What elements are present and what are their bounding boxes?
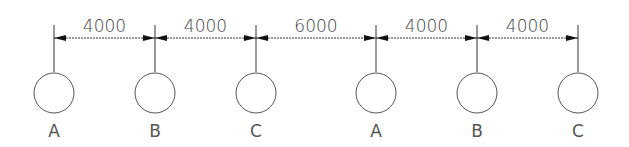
axis-bubble bbox=[135, 73, 175, 113]
axis-bubble bbox=[457, 73, 497, 113]
dimension-value: 4000 bbox=[184, 16, 227, 36]
arrowhead-icon bbox=[244, 35, 256, 41]
dimension-value: 4000 bbox=[83, 16, 126, 36]
dimension-value: 6000 bbox=[294, 16, 337, 36]
axis-bubble bbox=[356, 73, 396, 113]
arrowhead-icon bbox=[256, 35, 268, 41]
arrowhead-icon bbox=[143, 35, 155, 41]
axis-label: C bbox=[572, 121, 584, 141]
arrowhead-icon bbox=[477, 35, 489, 41]
axis-bubble bbox=[34, 73, 74, 113]
arrowhead-icon bbox=[566, 35, 578, 41]
grid-axis-diagram: 40004000600040004000ABCABC bbox=[0, 0, 629, 147]
axis-label: A bbox=[48, 121, 60, 141]
axis-label: B bbox=[471, 121, 483, 141]
dimension-value: 4000 bbox=[506, 16, 549, 36]
arrowhead-icon bbox=[376, 35, 388, 41]
arrowhead-icon bbox=[465, 35, 477, 41]
arrowhead-icon bbox=[155, 35, 167, 41]
axis-bubble bbox=[558, 73, 598, 113]
dimension-value: 4000 bbox=[405, 16, 448, 36]
axis-label: C bbox=[250, 121, 262, 141]
arrowhead-icon bbox=[364, 35, 376, 41]
axis-label: B bbox=[149, 121, 161, 141]
arrowhead-icon bbox=[54, 35, 66, 41]
axis-bubble bbox=[236, 73, 276, 113]
axis-label: A bbox=[370, 121, 382, 141]
